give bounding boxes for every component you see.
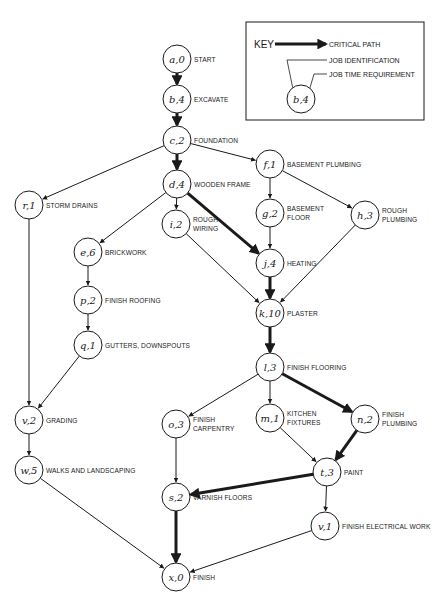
node-q: q,1GUTTERS, DOWNSPOUTS bbox=[74, 331, 191, 359]
key-title: KEY bbox=[254, 39, 274, 50]
node-description: FINISH ROOFING bbox=[105, 297, 161, 304]
key-job-time-requirement: JOB TIME REQUIREMENT bbox=[329, 71, 416, 79]
critical-path-diagram: a,0STARTb,4EXCAVATEc,2FOUNDATIONd,4WOODE… bbox=[0, 0, 441, 601]
node-m: m,1KITCHENFIXTURES bbox=[256, 404, 321, 432]
node-description: ROUGH bbox=[382, 207, 407, 214]
node-description: ROUGH bbox=[193, 216, 218, 223]
node-description: WALKS AND LANDSCAPING bbox=[46, 467, 135, 474]
node-description: WOODEN FRAME bbox=[194, 181, 251, 188]
node-description: FLOOR bbox=[287, 214, 310, 221]
key-critical-path: CRITICAL PATH bbox=[329, 41, 380, 48]
node-label: v,2 bbox=[22, 415, 36, 426]
node-description: BASEMENT PLUMBING bbox=[287, 161, 361, 168]
node-description: PAINT bbox=[344, 469, 363, 476]
node-k: k,10PLASTER bbox=[256, 299, 318, 327]
node-f: f,1BASEMENT PLUMBING bbox=[256, 150, 361, 178]
node-label: p,2 bbox=[80, 295, 96, 306]
node-h: h,3ROUGHPLUMBING bbox=[351, 201, 417, 229]
node-r: r,1STORM DRAINS bbox=[15, 191, 98, 219]
edge-l-o bbox=[189, 374, 258, 416]
node-description: STORM DRAINS bbox=[46, 202, 98, 209]
node-label: r,1 bbox=[22, 200, 35, 211]
node-description: FINISH FLOORING bbox=[287, 364, 346, 371]
edge-c-r bbox=[43, 146, 164, 199]
node-d: d,4WOODEN FRAME bbox=[163, 170, 251, 198]
node-b: b,4EXCAVATE bbox=[163, 85, 229, 113]
node-label: l,3 bbox=[264, 362, 277, 373]
node-n: n,2FINISHPLUMBING bbox=[351, 405, 417, 433]
node-label: i,2 bbox=[170, 219, 183, 230]
node-label: b,4 bbox=[169, 94, 185, 105]
node-label: v,1 bbox=[318, 521, 332, 532]
node-v: v,2GRADING bbox=[15, 406, 77, 434]
legend-key: KEY CRITICAL PATH JOB IDENTIFICATION JOB… bbox=[246, 22, 424, 120]
node-o: o,3FINISHCARPENTRY bbox=[162, 410, 235, 438]
node-label: d,4 bbox=[169, 179, 185, 190]
node-p: p,2FINISH ROOFING bbox=[74, 286, 161, 314]
nodes-layer: a,0STARTb,4EXCAVATEc,2FOUNDATIONd,4WOODE… bbox=[15, 45, 431, 591]
node-c: c,2FOUNDATION bbox=[163, 126, 238, 154]
key-example-node-label: b,4 bbox=[293, 94, 309, 105]
edge-q-v bbox=[38, 356, 79, 408]
edge-m-t bbox=[280, 428, 316, 462]
critical-edge-l-n bbox=[282, 374, 352, 412]
node-a: a,0START bbox=[163, 45, 216, 73]
node-u: v,1FINISH ELECTRICAL WORK bbox=[311, 512, 431, 540]
node-description: FINISH bbox=[382, 411, 404, 418]
node-label: f,1 bbox=[263, 159, 277, 170]
edge-c-f bbox=[191, 143, 256, 160]
edge-d-e bbox=[100, 192, 166, 242]
node-label: j,4 bbox=[262, 258, 277, 269]
node-description: FINISH bbox=[193, 574, 215, 581]
node-description: VARNISH FLOORS bbox=[193, 494, 253, 501]
node-label: g,2 bbox=[262, 208, 278, 219]
node-w: w,5WALKS AND LANDSCAPING bbox=[15, 456, 135, 484]
node-description: FINISH ELECTRICAL WORK bbox=[342, 523, 431, 530]
node-label: t,3 bbox=[320, 467, 334, 478]
node-description: PLUMBING bbox=[382, 420, 417, 427]
node-label: w,5 bbox=[21, 465, 38, 476]
critical-edge-n-t bbox=[336, 430, 357, 459]
node-label: x,0 bbox=[168, 572, 184, 583]
node-description: START bbox=[194, 56, 216, 63]
node-label: c,2 bbox=[169, 135, 184, 146]
node-label: s,2 bbox=[169, 492, 184, 503]
node-description: BRICKWORK bbox=[105, 249, 147, 256]
edge-t-u bbox=[326, 486, 327, 511]
node-e: e,6BRICKWORK bbox=[74, 238, 147, 266]
node-label: e,6 bbox=[80, 247, 96, 258]
node-description: KITCHEN bbox=[287, 410, 317, 417]
node-description: GRADING bbox=[46, 417, 77, 424]
node-label: k,10 bbox=[259, 308, 282, 319]
node-l: l,3FINISH FLOORING bbox=[256, 353, 346, 381]
node-description: HEATING bbox=[287, 260, 317, 267]
node-x: x,0FINISH bbox=[162, 563, 215, 591]
node-description: EXCAVATE bbox=[194, 96, 229, 103]
node-description: GUTTERS, DOWNSPOUTS bbox=[105, 342, 191, 349]
node-t: t,3PAINT bbox=[313, 458, 363, 486]
node-description: BASEMENT bbox=[287, 205, 324, 212]
node-label: q,1 bbox=[80, 340, 96, 351]
edge-w-x bbox=[40, 478, 164, 568]
node-j: j,4HEATING bbox=[256, 249, 317, 277]
critical-edge-t-s bbox=[191, 474, 313, 494]
node-label: a,0 bbox=[169, 54, 185, 65]
node-g: g,2BASEMENTFLOOR bbox=[256, 199, 324, 227]
node-label: m,1 bbox=[260, 413, 279, 424]
edge-f-h bbox=[282, 171, 351, 208]
node-description: PLUMBING bbox=[382, 216, 417, 223]
node-description: FINISH bbox=[193, 416, 215, 423]
node-description: FIXTURES bbox=[287, 419, 321, 426]
node-description: CARPENTRY bbox=[193, 425, 235, 432]
node-description: WIRING bbox=[193, 225, 218, 232]
node-label: h,3 bbox=[357, 210, 373, 221]
critical-edge-d-j bbox=[188, 193, 259, 253]
node-description: PLASTER bbox=[287, 310, 318, 317]
node-label: o,3 bbox=[168, 419, 184, 430]
node-i: i,2ROUGHWIRING bbox=[162, 210, 218, 238]
edge-u-x bbox=[190, 531, 312, 573]
node-label: n,2 bbox=[357, 414, 373, 425]
key-job-identification: JOB IDENTIFICATION bbox=[329, 57, 400, 64]
node-description: FOUNDATION bbox=[194, 137, 238, 144]
